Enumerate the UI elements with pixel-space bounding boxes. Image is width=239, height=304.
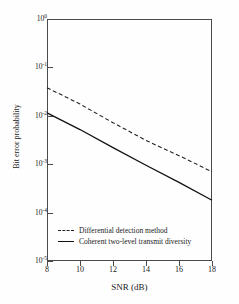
x-tick-label-10: 10 (67, 265, 93, 274)
y-label-exponent: -4 (42, 207, 47, 213)
x-axis-title: SNR (dB) (47, 282, 212, 292)
dashed-line-swatch-icon (58, 227, 74, 234)
chart-figure: 100 10-1 10-2 10-3 10-4 10-5 8 10 12 14 … (0, 0, 239, 304)
y-tick-label-1e-2: 10-2 (35, 112, 47, 120)
x-tick-label-14: 14 (133, 265, 159, 274)
y-label-exponent: -5 (42, 255, 47, 261)
y-tick-1e-2 (47, 116, 53, 117)
y-tick-label-1e-1: 10-1 (35, 63, 47, 71)
y-tick-label-1e-3: 10-3 (35, 160, 47, 168)
y-tick-1e0 (47, 19, 53, 20)
x-tick-label-16: 16 (166, 265, 192, 274)
y-tick-label-1e-4: 10-4 (35, 209, 47, 217)
y-label-exponent: 0 (44, 13, 47, 19)
y-tick-1e-1 (47, 67, 53, 68)
y-tick-label-1e0: 100 (37, 15, 47, 23)
y-axis-title: Bit error probability (12, 77, 21, 197)
y-label-exponent: -1 (42, 61, 47, 67)
x-tick-label-18: 18 (199, 265, 225, 274)
y-label-exponent: -2 (42, 110, 47, 116)
x-tick-label-12: 12 (100, 265, 126, 274)
y-tick-1e-3 (47, 164, 53, 165)
legend: Differential detection method Coherent t… (58, 225, 208, 247)
legend-item-differential-detection-method: Differential detection method (58, 225, 208, 236)
legend-label: Differential detection method (79, 225, 168, 236)
y-tick-label-1e-5: 10-5 (35, 257, 47, 265)
x-tick-label-8: 8 (34, 265, 60, 274)
solid-line-swatch-icon (58, 238, 74, 245)
y-label-exponent: -3 (42, 158, 47, 164)
y-tick-1e-4 (47, 213, 53, 214)
legend-item-coherent-two-level-transmit-diversity: Coherent two-level transmit diversity (58, 236, 208, 247)
legend-label: Coherent two-level transmit diversity (79, 236, 191, 247)
